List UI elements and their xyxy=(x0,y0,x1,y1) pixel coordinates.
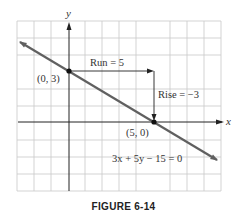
figure-caption: FIGURE 6-14 xyxy=(0,201,247,212)
y-axis-arrow-icon xyxy=(67,22,72,30)
graph xyxy=(0,0,247,222)
point-b-label: (5, 0) xyxy=(126,127,149,138)
x-axis-arrow-icon xyxy=(216,120,224,125)
rise-label: Rise = −3 xyxy=(158,89,199,100)
run-arrowhead-icon xyxy=(147,69,154,74)
point-a-label: (0, 3) xyxy=(37,73,60,84)
y-axis-label: y xyxy=(66,7,71,19)
point-5-0 xyxy=(151,119,156,124)
grid xyxy=(17,21,221,191)
equation-label: 3x + 5y − 15 = 0 xyxy=(112,153,182,164)
point-0-3 xyxy=(66,68,71,73)
x-axis-label: x xyxy=(226,115,231,127)
axes xyxy=(18,28,222,191)
run-label: Run = 5 xyxy=(90,57,124,68)
